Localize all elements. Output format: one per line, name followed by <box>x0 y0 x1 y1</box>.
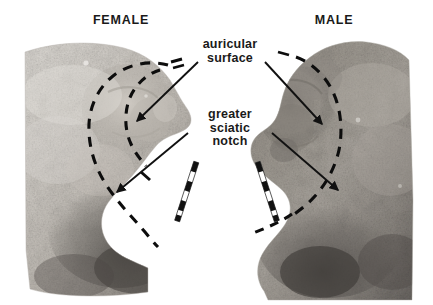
female-label: FEMALE <box>62 14 180 28</box>
scale-bar-female <box>175 161 199 222</box>
auricular-surface-label: auricular surface <box>180 38 280 65</box>
arrow-notch-male <box>272 133 338 190</box>
scale-bar-male <box>255 161 279 222</box>
female-auricular-outline-dashed <box>89 59 184 247</box>
figure-container: FEMALE MALE auricular surface greater sc… <box>0 0 433 305</box>
arrow-notch-female <box>117 133 188 192</box>
greater-sciatic-notch-label: greater sciatic notch <box>182 108 278 149</box>
male-label: MALE <box>284 14 384 28</box>
